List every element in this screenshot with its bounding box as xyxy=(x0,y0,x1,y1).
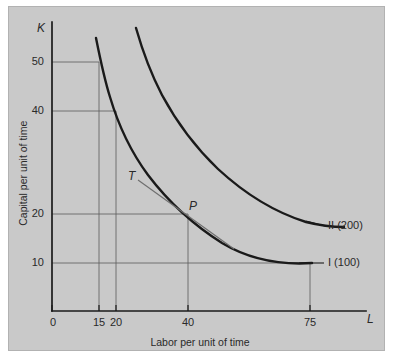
point-p-label: P xyxy=(189,200,197,212)
y-axis-title: Capital per unit of time xyxy=(18,103,29,243)
x-axis-title: Labor per unit of time xyxy=(120,337,280,348)
isoquant-2-label: II (200) xyxy=(328,220,363,231)
x-tick-label-0: 0 xyxy=(48,317,58,328)
x-tick-label-15: 15 xyxy=(90,317,108,328)
isoquant-curve-1 xyxy=(96,38,312,263)
curve-leader-lines xyxy=(299,221,325,263)
isoquant-figure: K L 50 40 20 10 0 15 20 40 75 P T II (20… xyxy=(0,0,393,363)
x-tick-marks xyxy=(52,305,310,311)
guide-lines xyxy=(52,62,310,311)
x-tick-label-20: 20 xyxy=(107,317,125,328)
tangent-line xyxy=(138,180,234,249)
x-tick-label-75: 75 xyxy=(301,317,319,328)
y-tick-label-50: 50 xyxy=(12,56,44,67)
chart-canvas xyxy=(0,0,393,363)
y-tick-label-10: 10 xyxy=(12,257,44,268)
tangent-t-label: T xyxy=(128,170,135,182)
isoquant-1-label: I (100) xyxy=(328,257,360,268)
y-axis-symbol: K xyxy=(37,22,45,34)
x-tick-label-40: 40 xyxy=(179,317,197,328)
x-axis-symbol: L xyxy=(367,313,374,325)
